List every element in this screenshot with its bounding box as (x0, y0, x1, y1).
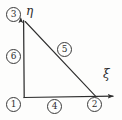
hypotenuse-edge (25, 22, 95, 97)
edge-marker-6: 6 (6, 49, 21, 64)
node-marker-2: 2 (87, 97, 102, 112)
edge-marker-5: 5 (57, 42, 72, 57)
triangle-element-figure: 3 1 2 6 4 5 η ξ (0, 0, 122, 120)
xi-axis-label: ξ (103, 68, 110, 80)
left-edge-eta-axis (24, 21, 25, 98)
node-marker-1: 1 (6, 97, 21, 112)
eta-axis-label: η (26, 5, 33, 17)
bottom-edge-xi-axis (24, 96, 113, 97)
edge-marker-4: 4 (47, 99, 62, 114)
node-marker-3: 3 (6, 7, 21, 22)
